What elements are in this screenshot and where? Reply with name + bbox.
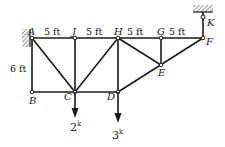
label-G: G: [157, 26, 165, 37]
load-arrow-C: [72, 92, 79, 118]
label-F: F: [205, 36, 214, 47]
joint-F: [201, 36, 205, 40]
dimension-JH: 5 ft: [86, 26, 103, 37]
member-AC: [32, 38, 75, 92]
joint-B: [30, 90, 34, 94]
truss-diagram: A J H G F K B C D E 5 ft 5 ft 5 ft 5 ft …: [0, 0, 225, 147]
label-J: J: [70, 26, 77, 37]
label-A: A: [27, 26, 35, 37]
label-B: B: [28, 95, 36, 106]
dimension-AJ: 5 ft: [44, 26, 61, 37]
truss-members: [32, 38, 203, 92]
label-E: E: [157, 67, 166, 78]
label-K: K: [206, 17, 215, 28]
member-HE: [118, 38, 161, 65]
label-C: C: [64, 91, 72, 102]
label-D: D: [106, 91, 115, 102]
dimension-GF: 5 ft: [169, 26, 186, 37]
load-value-D: 3k: [112, 128, 124, 142]
dimension-HG: 5 ft: [127, 26, 144, 37]
load-arrow-D: [115, 92, 122, 123]
dimension-AB: 6 ft: [10, 63, 27, 74]
load-value-C: 2k: [70, 120, 82, 134]
member-HC: [75, 38, 118, 92]
label-H: H: [113, 26, 123, 37]
